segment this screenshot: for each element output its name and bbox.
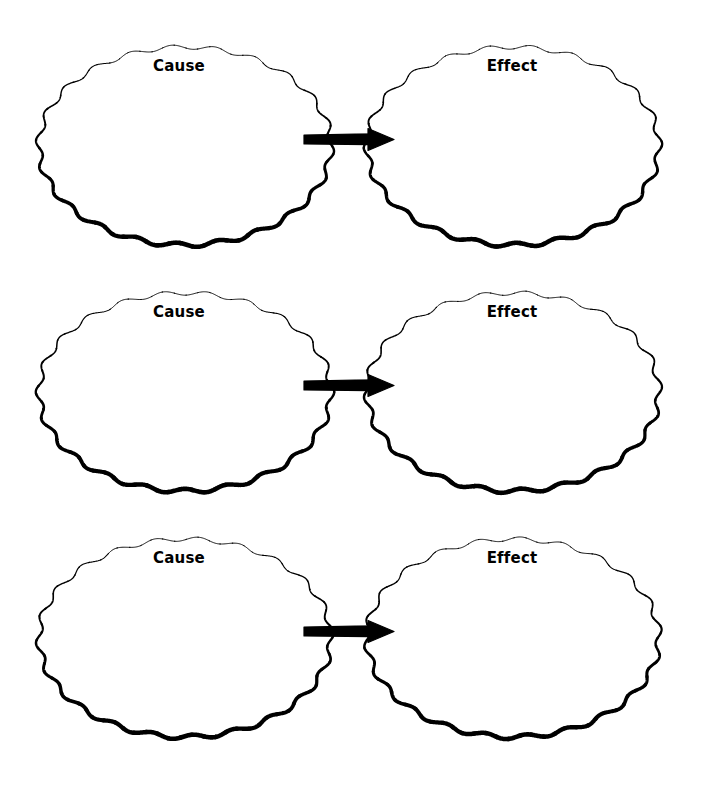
bubble-outline-segment: [387, 582, 397, 587]
bubble-outline-segment: [608, 565, 617, 571]
bubble-outline-segment: [428, 307, 436, 314]
bubble-outline-segment: [643, 350, 653, 356]
bubble-outline-segment: [321, 357, 329, 364]
bubble-outline-segment: [254, 304, 263, 311]
bubble-outline-segment: [375, 601, 379, 609]
bubble-outline-segment: [572, 53, 582, 59]
bubble-outline-segment: [636, 88, 640, 96]
bubble-outline-segment: [380, 102, 384, 110]
bubble-outline-segment: [526, 46, 538, 48]
bubble-outline-segment: [635, 335, 637, 344]
bubble-outline-segment: [403, 76, 408, 84]
bubble-outline-segment: [625, 84, 636, 89]
bubble-outline-segment: [580, 552, 593, 554]
bubble-outline-segment: [514, 291, 527, 293]
bubble-outline-segment: [289, 324, 296, 331]
bubble-outline-segment: [637, 589, 646, 595]
bubble-outline-segment: [141, 540, 152, 546]
bubble-outline-segment: [590, 64, 603, 66]
bubble-outline-segment: [117, 547, 130, 548]
effect-bubble[interactable]: Effect: [358, 286, 668, 498]
bubble-outline-segment: [634, 581, 637, 590]
bubble-outline-segment: [99, 309, 111, 312]
bubble-outline-segment: [548, 297, 561, 298]
bubble-outline-segment: [385, 335, 396, 340]
bubble-outline-segment: [368, 609, 376, 616]
bubble-outline-segment: [220, 543, 233, 544]
bubble-outline-segment: [394, 83, 404, 88]
bubble-outline-segment: [109, 59, 120, 63]
cause-bubble[interactable]: Cause: [30, 40, 340, 252]
bubble-outline-segment: [537, 542, 549, 543]
bubble-outline-segment: [617, 570, 629, 574]
bubble-outline-segment: [491, 541, 504, 542]
bubble-outline-segment: [57, 581, 68, 586]
bubble-outline-segment: [299, 575, 308, 581]
bubble-outline-segment: [611, 71, 616, 79]
bubble-outline-segment: [255, 57, 264, 64]
worksheet-canvas: CauseEffectCauseEffectCauseEffect: [0, 0, 701, 788]
bubble-outline-segment: [163, 45, 175, 48]
bubble-outline-segment: [373, 356, 380, 363]
bubble-outline-segment: [162, 292, 175, 294]
bubble-outline-segment: [602, 66, 612, 71]
bubble-outline-segment: [45, 602, 52, 609]
bubble-outline-segment: [581, 59, 591, 65]
bubble-outline-segment: [83, 70, 89, 78]
bubble-outline-segment: [435, 549, 447, 553]
bubble-outline-segment: [628, 574, 634, 582]
bubble-outline-segment: [174, 45, 187, 48]
bubble-outline-segment: [108, 548, 118, 554]
bubble-outline-segment: [428, 63, 438, 68]
bubble-outline-segment: [282, 564, 288, 572]
bubble-outline-segment: [559, 52, 572, 53]
bubble-outline-segment: [590, 309, 603, 311]
bubble-outline-segment: [47, 103, 57, 109]
bubble-outline-segment: [67, 575, 75, 582]
bubble-outline-segment: [397, 574, 402, 582]
bubble-outline-segment: [603, 311, 611, 318]
bubble-outline-segment: [580, 306, 591, 309]
bubble-outline-segment: [548, 542, 561, 543]
bubble-outline-segment: [53, 586, 57, 594]
bubble-outline-segment: [478, 539, 491, 540]
bubble-outline-segment: [592, 554, 603, 558]
bubble-outline-segment: [428, 552, 435, 560]
cause-effect-row: CauseEffect: [0, 532, 701, 744]
bubble-outline-segment: [271, 69, 284, 72]
cause-bubble[interactable]: Cause: [30, 286, 340, 498]
cause-effect-row: CauseEffect: [0, 286, 701, 498]
effect-bubble[interactable]: Effect: [358, 40, 668, 252]
bubble-outline-segment: [371, 110, 380, 117]
bubble-outline-segment: [244, 299, 254, 304]
bubble-outline-segment: [616, 79, 625, 85]
bubble-outline-segment: [610, 318, 617, 325]
bubble-outline-segment: [263, 63, 272, 69]
bubble-outline-segment: [526, 291, 538, 295]
bubble-outline-segment: [79, 562, 90, 567]
bubble-outline-segment: [469, 294, 480, 300]
bubble-outline-segment: [502, 48, 514, 49]
bubble-outline-segment: [64, 329, 75, 334]
effect-bubble[interactable]: Effect: [358, 532, 668, 744]
bubble-outline-segment: [396, 329, 403, 336]
bubble-outline-segment: [660, 387, 662, 392]
bubble-outline-segment: [220, 297, 232, 299]
bubble-outline-segment: [128, 51, 141, 53]
bubble-outline-segment: [89, 560, 101, 563]
bubble-outline-segment: [457, 299, 469, 301]
bubble-outline-segment: [141, 296, 152, 299]
bubble-outline-segment: [118, 299, 129, 303]
bubble-outline-segment: [152, 48, 163, 52]
bubble-outline-segment: [50, 349, 56, 356]
bubble-outline-segment: [119, 52, 128, 59]
bubble-outline-segment: [616, 325, 628, 329]
bubble-outline-segment: [89, 65, 98, 71]
bubble-outline-segment: [446, 548, 459, 549]
bubble-outline-segment: [502, 538, 514, 542]
bubble-outline-segment: [296, 330, 308, 335]
cause-bubble[interactable]: Cause: [30, 532, 340, 744]
bubble-outline-segment: [284, 316, 290, 324]
bubble-outline-segment: [81, 315, 88, 323]
bubble-outline-segment: [262, 310, 274, 313]
